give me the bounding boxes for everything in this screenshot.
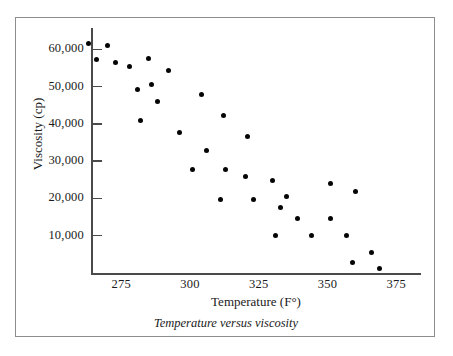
data-point (135, 87, 140, 92)
data-point (328, 216, 333, 221)
figure-frame: 10,00020,00030,00040,00050,00060,000 275… (15, 17, 435, 337)
y-axis-tick-label: 20,000 (14, 190, 84, 205)
data-point (146, 56, 151, 61)
data-point (105, 43, 110, 48)
y-axis-tick (92, 123, 102, 125)
data-point (295, 216, 300, 221)
data-point (113, 60, 118, 65)
y-axis-tick-label: 30,000 (14, 153, 84, 168)
x-axis-tick-label: 275 (98, 277, 144, 292)
data-point (138, 118, 143, 123)
data-point (149, 82, 154, 87)
x-axis-tick-label: 325 (236, 277, 282, 292)
data-point (328, 181, 333, 186)
x-axis-title: Temperature (F°) (91, 294, 421, 310)
data-point (86, 41, 91, 46)
x-axis-tick-label: 375 (373, 277, 419, 292)
y-axis-tick (92, 235, 102, 237)
data-point (353, 189, 358, 194)
data-point (199, 92, 204, 97)
y-axis-tick-label: 10,000 (14, 228, 84, 243)
y-axis-tick (92, 198, 102, 200)
data-point (155, 99, 160, 104)
x-axis-tick-label: 300 (167, 277, 213, 292)
data-point (190, 167, 195, 172)
data-point (94, 57, 99, 62)
data-point (369, 250, 374, 255)
data-point (344, 233, 349, 238)
data-point (221, 113, 226, 118)
data-point (284, 194, 289, 199)
y-axis-title: Viscosity (cp) (30, 64, 46, 204)
y-axis-tick-label: 50,000 (14, 79, 84, 94)
data-point (273, 233, 278, 238)
data-point (245, 134, 250, 139)
data-point (377, 266, 382, 271)
data-point (166, 68, 171, 73)
data-point (243, 174, 248, 179)
y-axis-line (91, 28, 93, 274)
y-axis-tick (92, 49, 102, 51)
x-axis-tick-label: 350 (305, 277, 351, 292)
data-point (278, 205, 283, 210)
y-axis-tick-label: 60,000 (14, 41, 84, 56)
data-point (251, 197, 256, 202)
data-point (204, 148, 209, 153)
x-axis-line (91, 273, 421, 275)
data-point (177, 130, 182, 135)
y-axis-tick-label: 40,000 (14, 116, 84, 131)
data-point (218, 197, 223, 202)
data-point (270, 178, 275, 183)
y-axis-tick (92, 86, 102, 88)
data-point (223, 167, 228, 172)
data-point (350, 260, 355, 265)
data-point (309, 233, 314, 238)
data-point (127, 64, 132, 69)
y-axis-tick (92, 160, 102, 162)
scatter-plot: 10,00020,00030,00040,00050,00060,000 275… (16, 18, 436, 338)
figure-caption: Temperature versus viscosity (56, 316, 396, 331)
